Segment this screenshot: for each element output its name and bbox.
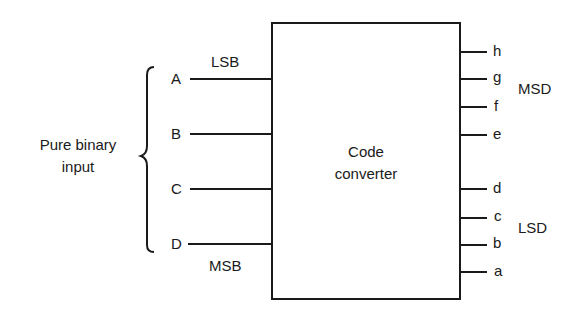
output-label-e: e	[493, 126, 501, 142]
input-group-label-line1: Pure binary	[22, 137, 134, 153]
output-label-g: g	[493, 69, 501, 85]
input-brace	[141, 67, 154, 252]
output-label-f: f	[494, 98, 498, 114]
block-label-line2: converter	[296, 166, 436, 182]
input-label-a: A	[171, 71, 181, 87]
input-label-d: D	[171, 236, 182, 252]
output-label-c: c	[494, 208, 502, 224]
input-label-b: B	[171, 126, 181, 142]
code-converter-block	[272, 23, 460, 299]
input-label-c: C	[171, 181, 182, 197]
lsb-label: LSB	[211, 54, 239, 70]
msb-label: MSB	[209, 258, 242, 274]
msd-label: MSD	[518, 81, 551, 97]
input-group-label-line2: input	[22, 159, 134, 175]
output-label-h: h	[493, 43, 501, 59]
output-label-a: a	[494, 263, 502, 279]
lsd-label: LSD	[518, 220, 547, 236]
output-label-d: d	[493, 180, 501, 196]
output-label-b: b	[493, 235, 501, 251]
block-label-line1: Code	[296, 144, 436, 160]
